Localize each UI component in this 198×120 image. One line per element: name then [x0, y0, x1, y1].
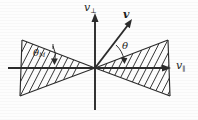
axis-label-v-perpendicular-subscript: ⊥	[90, 7, 96, 15]
loss-cone-figure: v⊥ v∥ v θ θM	[0, 0, 198, 120]
v-perpendicular-axis	[92, 13, 99, 110]
axis-label-v-parallel: v∥	[176, 60, 185, 72]
figure-canvas	[0, 0, 198, 120]
angle-label-theta-m: θM	[33, 48, 45, 59]
angle-label-theta-m-subscript: M	[39, 51, 45, 58]
left-cone-hatching	[0, 28, 97, 110]
axis-label-v-perpendicular: v⊥	[84, 2, 97, 14]
axis-label-v-parallel-subscript: ∥	[182, 65, 185, 73]
angle-label-theta: θ	[122, 41, 128, 51]
vector-label-v: v	[123, 9, 129, 20]
